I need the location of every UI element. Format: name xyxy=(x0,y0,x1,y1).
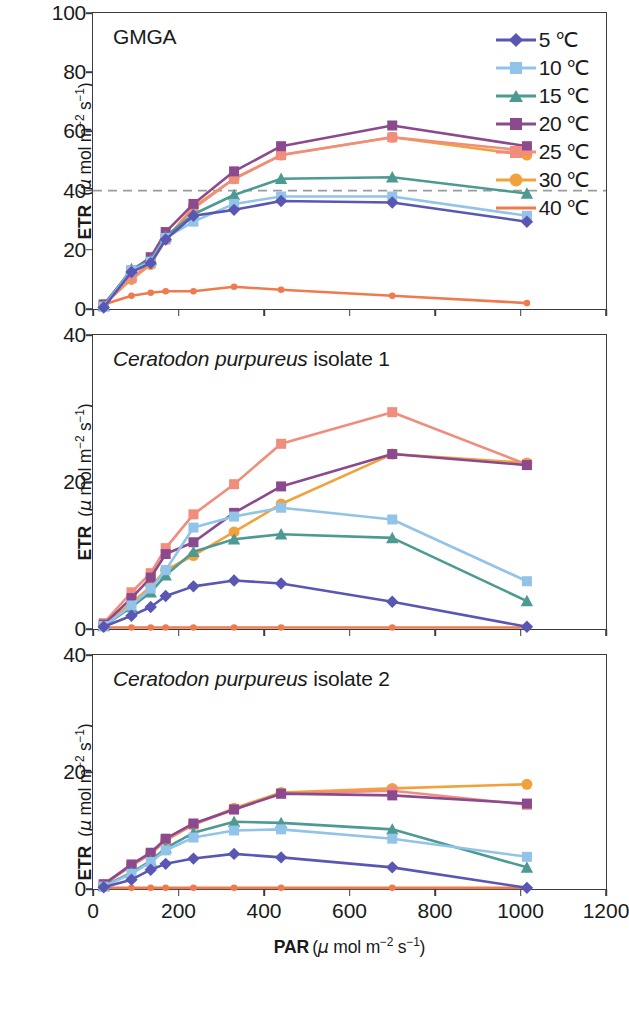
data-point-marker xyxy=(389,885,396,892)
x-tick-mark xyxy=(605,629,607,636)
y-tick-label: 60 xyxy=(63,119,86,143)
x-tick-label: 800 xyxy=(417,899,452,923)
data-point-marker xyxy=(187,852,199,864)
legend-swatch-icon xyxy=(496,33,536,47)
data-point-marker xyxy=(387,834,397,844)
data-point-marker xyxy=(159,858,171,870)
y-tick-label: 0 xyxy=(75,297,86,321)
data-point-marker xyxy=(146,584,156,594)
y-tick-mark xyxy=(86,71,93,73)
x-tick-mark xyxy=(520,889,522,896)
y-tick-mark xyxy=(86,334,93,336)
data-point-marker xyxy=(229,166,239,176)
x-tick-mark xyxy=(349,309,351,316)
legend-item-25c[interactable]: 25 ℃ xyxy=(496,139,590,165)
x-tick-mark xyxy=(434,889,436,896)
y-tick-label: 20 xyxy=(63,238,86,262)
data-point-marker xyxy=(188,199,198,209)
x-tick-mark xyxy=(178,889,180,896)
y-tick-label: 80 xyxy=(63,60,86,84)
y-tick-mark xyxy=(86,771,93,773)
legend-item-5c[interactable]: 5 ℃ xyxy=(496,27,590,53)
series-40c xyxy=(100,284,530,308)
data-point-marker xyxy=(387,120,397,130)
data-point-marker xyxy=(190,624,197,631)
data-point-marker xyxy=(276,141,286,151)
x-tick-mark xyxy=(605,889,607,896)
panel-ceratodon-isolate-2: ETR (μ mol m−2 s−1) Ceratodon purpureus … xyxy=(0,642,625,962)
data-point-marker xyxy=(231,885,238,892)
data-point-marker xyxy=(229,512,239,522)
data-point-marker xyxy=(231,624,238,631)
data-point-marker xyxy=(229,804,239,814)
data-point-marker xyxy=(278,286,285,293)
legend-swatch-icon xyxy=(496,173,536,187)
legend-label: 40 ℃ xyxy=(539,196,590,220)
legend: 5 ℃10 ℃15 ℃20 ℃25 ℃30 ℃40 ℃ xyxy=(496,27,590,221)
series-canvas-panel-1 xyxy=(93,335,606,629)
data-point-marker xyxy=(276,481,286,491)
legend-label: 5 ℃ xyxy=(539,28,579,52)
y-tick-label: 100 xyxy=(52,1,86,25)
legend-label: 15 ℃ xyxy=(539,84,590,108)
x-tick-mark xyxy=(92,309,94,316)
x-tick-mark xyxy=(349,889,351,896)
data-point-marker xyxy=(161,549,171,559)
legend-item-15c[interactable]: 15 ℃ xyxy=(496,83,590,109)
x-tick-mark xyxy=(434,309,436,316)
x-tick-mark xyxy=(263,309,265,316)
series-line xyxy=(104,580,527,626)
data-point-marker xyxy=(188,523,198,533)
x-tick-label: 1200 xyxy=(583,899,629,923)
series-25c xyxy=(99,132,532,309)
legend-item-40c[interactable]: 40 ℃ xyxy=(496,195,590,221)
series-30c xyxy=(98,132,532,310)
legend-swatch-icon xyxy=(496,117,536,131)
x-tick-mark xyxy=(349,629,351,636)
legend-item-20c[interactable]: 20 ℃ xyxy=(496,111,590,137)
legend-item-10c[interactable]: 10 ℃ xyxy=(496,55,590,81)
data-point-marker xyxy=(162,624,169,631)
y-tick-mark xyxy=(86,654,93,656)
series-line xyxy=(104,137,527,304)
y-tick-mark xyxy=(86,481,93,483)
y-tick-label: 20 xyxy=(63,760,86,784)
data-point-marker xyxy=(276,789,286,799)
series-20c xyxy=(99,449,532,630)
data-point-marker xyxy=(522,852,532,862)
y-tick-mark xyxy=(86,131,93,133)
data-point-marker xyxy=(188,509,198,519)
x-tick-label: 400 xyxy=(246,899,281,923)
series-line xyxy=(104,125,527,304)
data-point-marker xyxy=(275,851,287,863)
data-point-marker xyxy=(521,621,533,633)
series-20c xyxy=(99,789,532,890)
y-tick-label: 40 xyxy=(63,179,86,203)
data-point-marker xyxy=(229,479,239,489)
data-point-marker xyxy=(128,292,135,299)
x-tick-mark xyxy=(263,889,265,896)
data-point-marker xyxy=(161,845,171,855)
legend-item-30c[interactable]: 30 ℃ xyxy=(496,167,590,193)
data-point-marker xyxy=(162,885,169,892)
data-point-marker xyxy=(524,300,531,307)
data-point-marker xyxy=(276,439,286,449)
data-point-marker xyxy=(278,624,285,631)
y-tick-mark xyxy=(86,190,93,192)
panel-gmga: ETR (μ mol m−2 s−1) GMGA 020406080100 5 … xyxy=(0,0,625,322)
series-5c xyxy=(97,195,533,314)
series-10c xyxy=(99,503,532,631)
data-point-marker xyxy=(522,460,532,470)
data-point-marker xyxy=(275,577,287,589)
data-point-marker xyxy=(521,779,532,790)
legend-label: 20 ℃ xyxy=(539,112,590,136)
x-tick-label: 600 xyxy=(332,899,367,923)
data-point-marker xyxy=(521,595,533,606)
legend-label: 30 ℃ xyxy=(539,168,590,192)
data-point-marker xyxy=(387,790,397,800)
x-tick-label: 200 xyxy=(161,899,196,923)
x-tick-mark xyxy=(520,629,522,636)
data-point-marker xyxy=(387,407,397,417)
data-point-marker xyxy=(522,799,532,809)
